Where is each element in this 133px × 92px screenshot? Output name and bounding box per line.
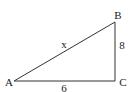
side-label-ab: x: [61, 38, 67, 50]
side-ab: [14, 22, 115, 81]
right-triangle-diagram: A B C x 8 6: [0, 0, 133, 92]
vertex-label-c: C: [119, 76, 126, 88]
vertex-label-a: A: [5, 76, 13, 88]
triangle-canvas: A B C x 8 6: [0, 0, 133, 92]
vertex-label-b: B: [114, 9, 121, 21]
side-label-bc: 8: [119, 39, 125, 51]
side-label-ac: 6: [61, 82, 67, 92]
